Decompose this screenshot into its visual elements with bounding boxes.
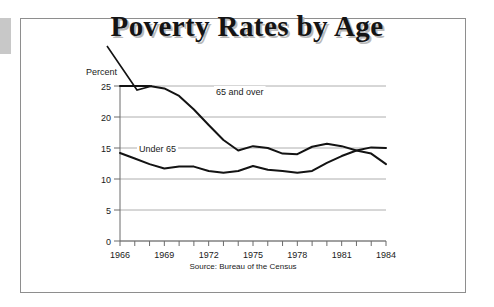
x-axis-tick-labels: 1966196919721975197819811984 [110, 250, 396, 260]
data-series-group [120, 86, 386, 173]
x-tick-label: 1975 [243, 250, 263, 260]
x-tick-label: 1969 [154, 250, 174, 260]
poverty-rates-line-chart: 0510152025 1966196919721975197819811984 … [20, 18, 466, 293]
y-tick-label: 10 [101, 175, 111, 185]
x-tick-label: 1972 [199, 250, 219, 260]
y-axis-caption: Percent [86, 67, 118, 77]
x-tick-label: 1966 [110, 250, 130, 260]
y-tick-label: 25 [101, 82, 111, 92]
y-axis-tick-labels: 0510152025 [101, 82, 111, 247]
series-label-under-65: Under 65 [139, 144, 176, 154]
y-tick-label: 0 [106, 237, 111, 247]
x-tick-label: 1984 [376, 250, 396, 260]
source-note: Source: Bureau of the Census [189, 262, 296, 271]
gridlines-group [114, 86, 386, 241]
y-tick-label: 5 [106, 206, 111, 216]
y-tick-label: 15 [101, 144, 111, 154]
y-tick-label: 20 [101, 113, 111, 123]
series-label-65-and-over: 65 and over [216, 87, 264, 97]
x-tick-label: 1981 [332, 250, 352, 260]
x-tick-label: 1978 [287, 250, 307, 260]
